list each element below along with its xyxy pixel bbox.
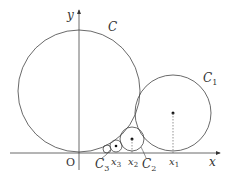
tangent-circles-diagram: y x O C C1 x1 C2 x2 x3 C3 bbox=[0, 0, 233, 177]
origin-label: O bbox=[66, 156, 75, 169]
circle-c3-label: C3 bbox=[95, 157, 109, 173]
x1-label: x1 bbox=[169, 156, 179, 169]
circle-c1-label: C1 bbox=[203, 71, 217, 87]
y-axis-label: y bbox=[66, 8, 74, 22]
x2-label: x2 bbox=[128, 156, 138, 169]
x-axis-label: x bbox=[209, 155, 216, 169]
x3-label: x3 bbox=[111, 156, 121, 169]
circle-c-label: C bbox=[108, 20, 117, 34]
circle-c4 bbox=[103, 145, 111, 153]
center-c3 bbox=[115, 145, 118, 148]
circle-c2-label: C2 bbox=[142, 157, 156, 173]
